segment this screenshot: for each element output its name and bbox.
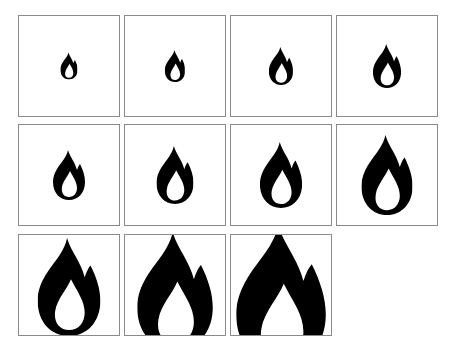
grid-cell: [18, 15, 120, 117]
flame-icon: [373, 44, 401, 88]
flame-icon: [260, 142, 302, 208]
flame-icon: [236, 234, 326, 336]
grid-cell: [18, 124, 120, 226]
flame-icon: [60, 53, 77, 80]
grid-cell: [124, 15, 226, 117]
flame-icon: [165, 50, 185, 82]
grid-cell: [18, 234, 120, 336]
flame-icon: [38, 238, 101, 336]
grid-cell: [230, 124, 332, 226]
grid-cell: [336, 15, 438, 117]
grid-cell: [124, 234, 226, 336]
flame-icon: [53, 150, 85, 200]
grid-cell: [336, 124, 438, 226]
flame-icon: [156, 146, 193, 204]
grid-cell: [230, 15, 332, 117]
flame-icon: [361, 135, 412, 215]
grid-cell: [124, 124, 226, 226]
flame-icon: [137, 234, 213, 336]
grid-cell: [230, 234, 332, 336]
flame-icon: [269, 47, 293, 85]
